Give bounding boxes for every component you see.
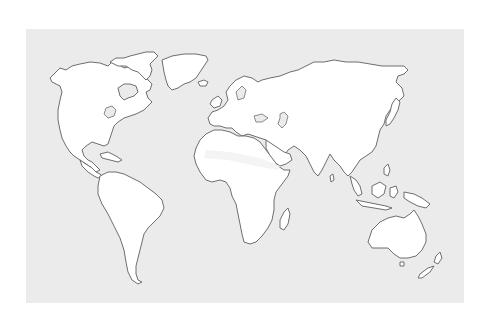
world-map <box>0 0 487 313</box>
region-philippines[interactable] <box>384 164 390 176</box>
region-south-america[interactable] <box>98 172 164 284</box>
region-madagascar[interactable] <box>280 208 290 230</box>
region-sulawesi[interactable] <box>390 186 398 198</box>
region-british-isles[interactable] <box>210 96 222 108</box>
region-sri-lanka[interactable] <box>330 174 334 182</box>
region-se-asia-peninsula[interactable] <box>350 176 362 196</box>
region-indonesia-chain[interactable] <box>356 200 392 210</box>
region-new-zealand[interactable] <box>418 252 442 278</box>
great-lakes <box>104 106 116 118</box>
region-caribbean[interactable] <box>100 152 122 162</box>
region-tasmania[interactable] <box>400 262 404 266</box>
region-borneo[interactable] <box>372 182 386 198</box>
region-new-guinea[interactable] <box>404 192 430 208</box>
region-iceland[interactable] <box>198 80 208 86</box>
region-australia[interactable] <box>368 210 426 258</box>
